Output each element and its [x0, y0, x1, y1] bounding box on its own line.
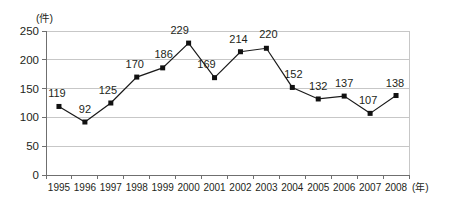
data-point-marker: [212, 75, 217, 80]
data-point-marker: [160, 65, 165, 70]
data-point-marker: [56, 104, 61, 109]
data-point-marker: [108, 101, 113, 106]
data-point-label: 152: [284, 68, 302, 80]
data-point-label: 169: [197, 58, 215, 70]
data-point-marker: [238, 49, 243, 54]
data-point-label: 229: [170, 24, 188, 36]
x-tick-label: 1999: [152, 182, 175, 193]
x-tick-label: 2000: [177, 182, 200, 193]
data-labels: 1199212517018622916921422015213213710713…: [48, 24, 404, 115]
x-tick-label: 1996: [74, 182, 97, 193]
x-tick-label: 2001: [203, 182, 226, 193]
x-tick-label: 2003: [255, 182, 278, 193]
data-point-marker: [264, 46, 269, 51]
data-point-label: 132: [309, 80, 327, 92]
y-axis-unit-label: (件): [36, 12, 53, 24]
y-tick-label: 250: [20, 25, 39, 37]
chart-canvas: 0501001502002501995199619971998199920002…: [0, 0, 449, 205]
x-tick-label: 1995: [48, 182, 71, 193]
x-axis-unit-label: (年): [412, 181, 429, 193]
data-point-marker: [316, 96, 321, 101]
data-point-label: 107: [359, 94, 377, 106]
line-chart: 0501001502002501995199619971998199920002…: [0, 0, 449, 205]
data-point-marker: [82, 120, 87, 125]
data-point-marker: [186, 41, 191, 46]
y-axis-ticks: 050100150200250: [20, 25, 46, 181]
data-point-label: 220: [259, 28, 277, 40]
y-tick-label: 0: [33, 169, 39, 181]
data-point-label: 170: [126, 58, 144, 70]
x-tick-label: 2007: [359, 182, 382, 193]
data-point-label: 92: [79, 103, 91, 115]
data-point-label: 137: [335, 77, 353, 89]
data-point-marker: [134, 75, 139, 80]
y-tick-label: 100: [20, 111, 39, 123]
x-tick-label: 2005: [307, 182, 330, 193]
x-tick-label: 2006: [333, 182, 356, 193]
y-tick-label: 150: [20, 83, 39, 95]
data-point-label: 214: [229, 33, 247, 45]
y-tick-label: 50: [26, 140, 39, 152]
data-point-label: 125: [99, 84, 117, 96]
x-axis-ticks: 1995199619971998199920002001200220032004…: [46, 175, 409, 193]
data-point-label: 138: [386, 77, 404, 89]
data-point-label: 119: [48, 87, 66, 99]
data-point-label: 186: [154, 48, 172, 60]
x-tick-label: 1997: [100, 182, 123, 193]
x-tick-label: 2004: [281, 182, 304, 193]
x-tick-label: 2008: [385, 182, 408, 193]
data-point-marker: [368, 111, 373, 116]
data-point-marker: [342, 94, 347, 99]
y-tick-label: 200: [20, 54, 39, 66]
x-tick-label: 1998: [126, 182, 149, 193]
x-tick-label: 2002: [229, 182, 252, 193]
data-point-marker: [290, 85, 295, 90]
data-point-marker: [394, 93, 399, 98]
